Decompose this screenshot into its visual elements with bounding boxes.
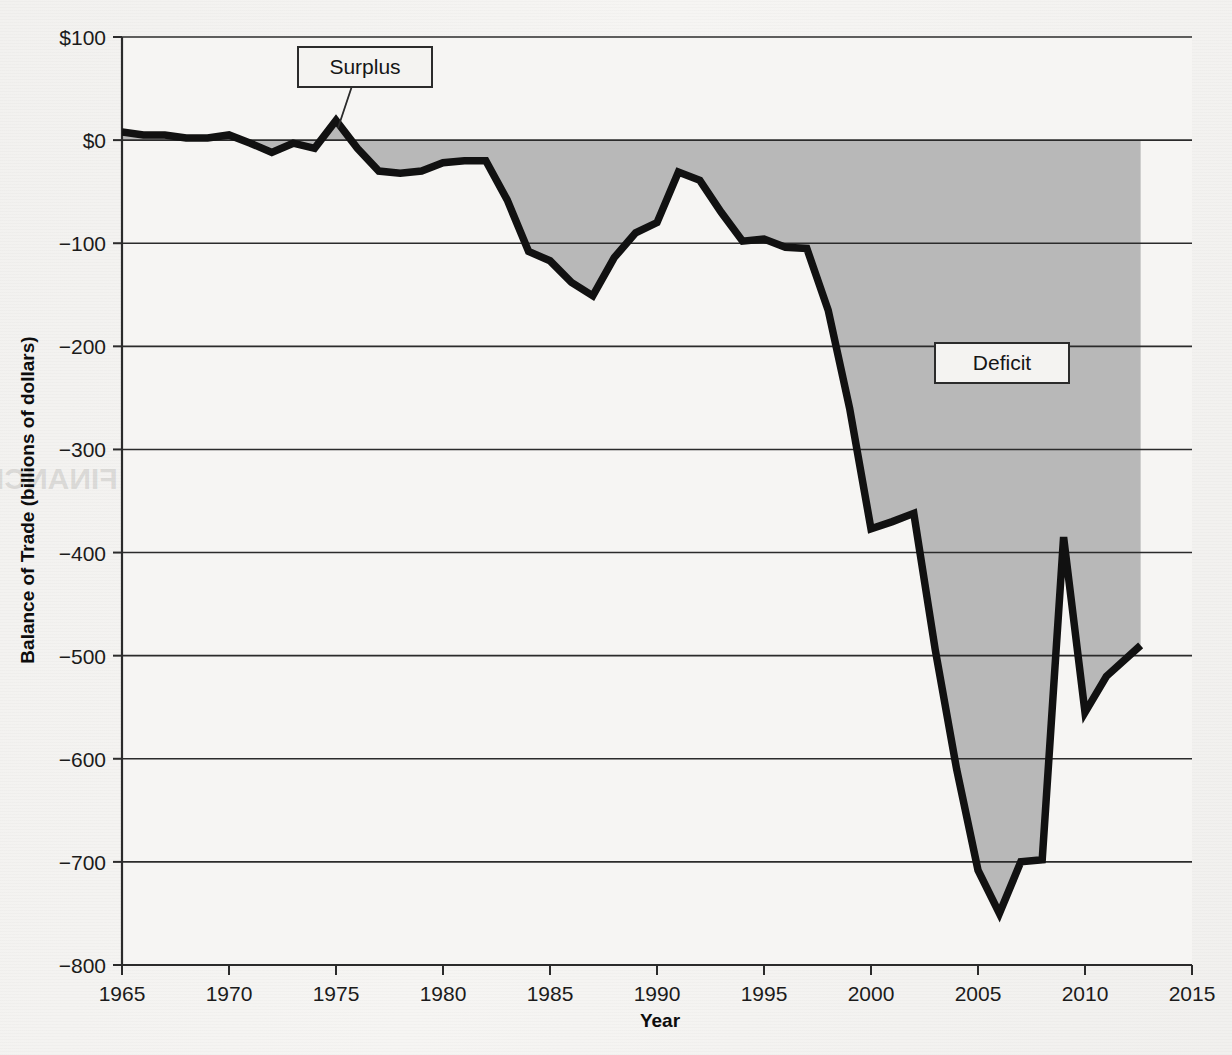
- y-tick-labels: $100$0−100−200−300−400−500−600−700−800: [59, 26, 106, 977]
- x-tick-label: 2000: [848, 982, 895, 1005]
- x-tick-label: 2005: [955, 982, 1002, 1005]
- y-tick-label: −700: [59, 851, 106, 874]
- x-tick-label: 1990: [634, 982, 681, 1005]
- y-tick-label: −500: [59, 645, 106, 668]
- y-tick-label: −800: [59, 954, 106, 977]
- y-tick-label: −300: [59, 438, 106, 461]
- x-tick-label: 1980: [420, 982, 467, 1005]
- x-axis-title: Year: [640, 1010, 681, 1031]
- y-axis-title: Balance of Trade (billions of dollars): [17, 336, 38, 663]
- x-tick-label: 1995: [741, 982, 788, 1005]
- x-tick-label: 1975: [313, 982, 360, 1005]
- balance-of-trade-figure: the trade balance. The In this case, the…: [0, 0, 1232, 1055]
- x-tick-marks: [122, 965, 1192, 975]
- x-tick-label: 2015: [1169, 982, 1216, 1005]
- x-tick-label: 1985: [527, 982, 574, 1005]
- deficit-callout: Deficit: [935, 343, 1069, 383]
- chart-canvas: 1965197019751980198519901995200020052010…: [0, 0, 1232, 1055]
- x-tick-label: 2010: [1062, 982, 1109, 1005]
- y-tick-label: $100: [59, 26, 106, 49]
- x-tick-label: 1965: [99, 982, 146, 1005]
- y-tick-label: −200: [59, 335, 106, 358]
- surplus-callout: Surplus: [298, 47, 432, 87]
- y-tick-label: $0: [83, 129, 106, 152]
- x-tick-label: 1970: [206, 982, 253, 1005]
- x-tick-labels: 1965197019751980198519901995200020052010…: [99, 982, 1216, 1005]
- deficit-callout-label: Deficit: [973, 351, 1032, 374]
- y-tick-label: −600: [59, 748, 106, 771]
- y-tick-marks: [113, 37, 122, 965]
- y-tick-label: −400: [59, 542, 106, 565]
- surplus-callout-label: Surplus: [329, 55, 400, 78]
- y-tick-label: −100: [59, 232, 106, 255]
